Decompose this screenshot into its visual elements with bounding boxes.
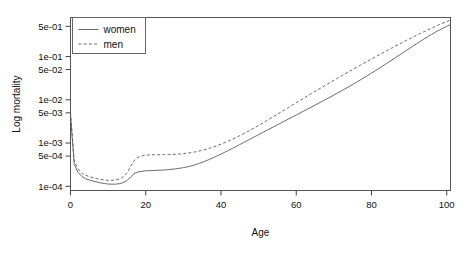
- y-tick-label: 1e-04: [38, 181, 62, 192]
- x-tick-label: 40: [216, 199, 227, 210]
- x-tick-label: 100: [439, 199, 455, 210]
- y-tick-label: 1e-01: [38, 51, 62, 62]
- y-tick-label: 5e-04: [38, 150, 62, 161]
- x-tick-label: 80: [366, 199, 377, 210]
- x-tick-label: 60: [291, 199, 302, 210]
- x-tick-label: 0: [68, 199, 73, 210]
- y-axis-title: Log mortality: [11, 75, 22, 132]
- x-axis-title: Age: [252, 227, 270, 238]
- legend-label-men: men: [104, 39, 123, 50]
- y-tick-label: 5e-02: [38, 64, 62, 75]
- mortality-log-chart: 5e-011e-015e-021e-025e-031e-035e-041e-04…: [0, 0, 468, 254]
- chart-canvas: 5e-011e-015e-021e-025e-031e-035e-041e-04…: [0, 0, 468, 254]
- y-tick-label: 5e-03: [38, 107, 62, 118]
- legend-label-women: women: [103, 24, 136, 35]
- y-tick-label: 1e-03: [38, 137, 62, 148]
- y-tick-label: 5e-01: [38, 21, 62, 32]
- y-tick-label: 1e-02: [38, 94, 62, 105]
- x-tick-label: 20: [140, 199, 151, 210]
